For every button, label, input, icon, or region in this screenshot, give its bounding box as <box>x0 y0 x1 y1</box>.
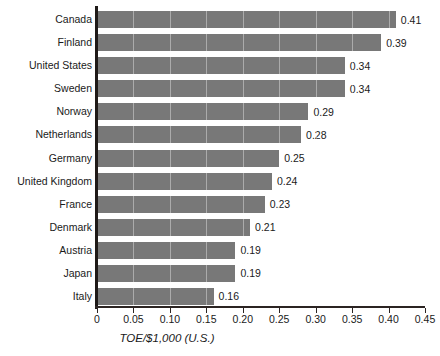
bar-row: 0.34 <box>97 57 425 74</box>
bar-value-label: 0.21 <box>250 222 275 233</box>
bar-value-label: 0.25 <box>279 153 304 164</box>
x-axis-tick-label: 0.05 <box>123 314 143 325</box>
bar-value-label: 0.19 <box>235 245 260 256</box>
gridline <box>243 8 244 308</box>
bar-row: 0.19 <box>97 242 425 259</box>
gridline <box>389 8 390 308</box>
x-axis-tick-label: 0.25 <box>269 314 289 325</box>
bar-value-label: 0.39 <box>381 37 406 48</box>
x-axis-line <box>95 306 425 308</box>
bar-row: 0.21 <box>97 219 425 236</box>
bar-chart: CanadaFinlandUnited StatesSwedenNorwayNe… <box>0 0 440 356</box>
category-label: United Kingdom <box>2 173 92 190</box>
category-axis-labels: CanadaFinlandUnited StatesSwedenNorwayNe… <box>0 8 92 308</box>
gridline <box>279 8 280 308</box>
gridline <box>133 8 134 308</box>
x-axis-tick-label: 0.40 <box>378 314 398 325</box>
bar-row: 0.25 <box>97 150 425 167</box>
bar-value-label: 0.16 <box>214 291 239 302</box>
category-label: United States <box>2 57 92 74</box>
bar-row: 0.34 <box>97 80 425 97</box>
bar-row: 0.24 <box>97 173 425 190</box>
gridline <box>425 8 426 308</box>
bar <box>97 34 381 51</box>
x-axis-tick-label: 0.20 <box>233 314 253 325</box>
bar-value-label: 0.19 <box>235 268 260 279</box>
category-label: Norway <box>2 103 92 120</box>
x-axis-tick-label: 0.15 <box>196 314 216 325</box>
bar-row: 0.19 <box>97 265 425 282</box>
bar <box>97 288 214 305</box>
bar-value-label: 0.29 <box>308 107 333 118</box>
category-label: Japan <box>2 265 92 282</box>
gridline <box>352 8 353 308</box>
bar <box>97 126 301 143</box>
bar <box>97 242 235 259</box>
category-label: France <box>2 196 92 213</box>
category-label: Italy <box>2 288 92 305</box>
category-label: Finland <box>2 34 92 51</box>
bar-value-label: 0.41 <box>396 14 421 25</box>
bar-value-label: 0.24 <box>272 176 297 187</box>
bar <box>97 196 265 213</box>
y-axis-line <box>95 6 98 309</box>
bar <box>97 103 308 120</box>
bar-value-label: 0.28 <box>301 130 326 141</box>
bar <box>97 173 272 190</box>
bar <box>97 265 235 282</box>
category-label: Netherlands <box>2 126 92 143</box>
bar-row: 0.16 <box>97 288 425 305</box>
bar-row: 0.39 <box>97 34 425 51</box>
bar-value-label: 0.34 <box>345 60 370 71</box>
bar-row: 0.41 <box>97 11 425 28</box>
x-axis-tick-label: 0.30 <box>305 314 325 325</box>
bar-row: 0.29 <box>97 103 425 120</box>
category-label: Germany <box>2 150 92 167</box>
plot-area: 0.410.390.340.340.290.280.250.240.230.21… <box>97 8 425 308</box>
x-axis-title: TOE/$1,000 (U.S.) <box>97 332 237 344</box>
bar-value-label: 0.23 <box>265 199 290 210</box>
category-label: Sweden <box>2 80 92 97</box>
x-axis-tick-label: 0.35 <box>342 314 362 325</box>
gridline <box>206 8 207 308</box>
gridline <box>316 8 317 308</box>
bar <box>97 219 250 236</box>
category-label: Denmark <box>2 219 92 236</box>
x-axis-tick-label: 0.10 <box>160 314 180 325</box>
category-label: Canada <box>2 11 92 28</box>
bar-value-label: 0.34 <box>345 84 370 95</box>
bar-row: 0.23 <box>97 196 425 213</box>
bar <box>97 11 396 28</box>
bar-row: 0.28 <box>97 126 425 143</box>
category-label: Austria <box>2 242 92 259</box>
gridline <box>170 8 171 308</box>
x-axis-tick-label: 0.45 <box>415 314 435 325</box>
x-axis-tick-label: 0 <box>94 314 100 325</box>
bar <box>97 150 279 167</box>
